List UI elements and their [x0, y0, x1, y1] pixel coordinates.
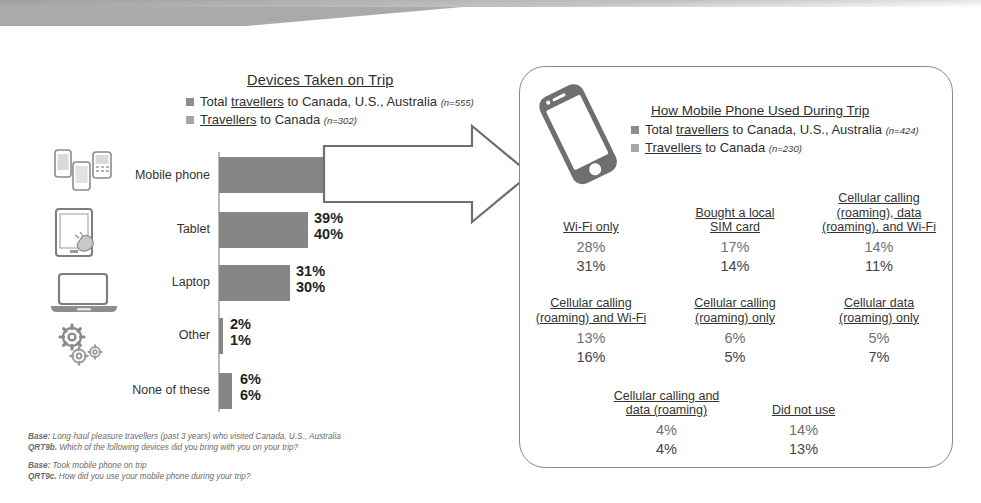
usage-value-canada: 13%: [739, 441, 868, 457]
usage-value-canada: 7%: [811, 349, 947, 365]
usage-row: Cellular calling (roaming) and Wi-Fi 13%…: [519, 296, 951, 365]
usage-value-total: 4%: [602, 422, 731, 438]
usage-grid: Wi-Fi only 28% 31% Bought a local SIM ca…: [519, 196, 951, 457]
usage-value-canada: 5%: [667, 349, 803, 365]
bar-chart: Mobile phone 78% 77% Tablet 39% 40% Lapt…: [0, 0, 520, 503]
right-legend-swatch-total: [631, 126, 639, 134]
bar-values-other: 2% 1%: [230, 316, 251, 349]
usage-label: Did not use: [739, 403, 868, 418]
smartphone-illustration-icon: [533, 80, 625, 196]
usage-label: Cellular calling (roaming), data (roamin…: [811, 191, 947, 235]
bar-values-none-of-these: 6% 6%: [240, 371, 261, 404]
usage-row: Wi-Fi only 28% 31% Bought a local SIM ca…: [519, 196, 951, 274]
right-legend-item-total: Total travellers to Canada, U.S., Austra…: [631, 122, 919, 137]
usage-cell: Cellular calling and data (roaming) 4% 4…: [598, 389, 735, 458]
usage-value-canada: 4%: [602, 441, 731, 457]
usage-value-total: 5%: [811, 330, 947, 346]
bar-label-none-of-these: None of these: [110, 383, 210, 397]
usage-label: Wi-Fi only: [523, 220, 659, 235]
usage-value-total: 14%: [811, 239, 947, 255]
bar-label-laptop: Laptop: [110, 275, 210, 289]
right-legend-label-total: Total travellers to Canada, U.S., Austra…: [645, 122, 919, 137]
usage-cell: Did not use 14% 13%: [735, 403, 872, 457]
bar-values-laptop: 31% 30%: [296, 263, 325, 296]
usage-cell: Cellular calling (roaming) and Wi-Fi 13%…: [519, 296, 663, 365]
usage-row: Cellular calling and data (roaming) 4% 4…: [519, 389, 951, 458]
right-legend-swatch-canada: [631, 144, 639, 152]
usage-cell: Cellular data (roaming) only 5% 7%: [807, 296, 951, 365]
usage-label: Cellular calling (roaming) and Wi-Fi: [523, 296, 659, 326]
usage-value-total: 13%: [523, 330, 659, 346]
usage-label: Bought a local SIM card: [667, 206, 803, 236]
usage-label: Cellular data (roaming) only: [811, 296, 947, 326]
right-legend: Total travellers to Canada, U.S., Austra…: [631, 122, 919, 158]
usage-value-canada: 16%: [523, 349, 659, 365]
usage-value-total: 17%: [667, 239, 803, 255]
footnote-devices: Base: Long-haul pleasure travellers (pas…: [28, 432, 341, 454]
usage-value-canada: 11%: [811, 258, 947, 274]
footnote-usage: Base: Took mobile phone on trip QRT9c. H…: [28, 461, 250, 483]
bar-tablet: [219, 212, 308, 248]
usage-value-total: 28%: [523, 239, 659, 255]
usage-label: Cellular calling (roaming) only: [667, 296, 803, 326]
bar-label-other: Other: [110, 328, 210, 342]
usage-label: Cellular calling and data (roaming): [602, 389, 731, 419]
usage-cell: Bought a local SIM card 17% 14%: [663, 206, 807, 275]
bar-label-tablet: Tablet: [110, 222, 210, 236]
bar-laptop: [219, 265, 290, 301]
usage-value-canada: 14%: [667, 258, 803, 274]
usage-value-canada: 31%: [523, 258, 659, 274]
flow-arrow-icon: [322, 124, 532, 228]
usage-cell: Cellular calling (roaming) only 6% 5%: [663, 296, 807, 365]
bar-other: [219, 318, 223, 354]
right-legend-item-canada: Travellers to Canada (n=230): [631, 140, 919, 155]
bar-label-mobile-phone: Mobile phone: [110, 168, 210, 182]
right-legend-label-canada: Travellers to Canada (n=230): [645, 140, 802, 155]
usage-cell: Cellular calling (roaming), data (roamin…: [807, 191, 951, 274]
usage-value-total: 6%: [667, 330, 803, 346]
usage-value-total: 14%: [739, 422, 868, 438]
bar-none-of-these: [219, 373, 232, 409]
usage-cell: Wi-Fi only 28% 31%: [519, 220, 663, 274]
right-panel-title: How Mobile Phone Used During Trip: [651, 103, 869, 118]
